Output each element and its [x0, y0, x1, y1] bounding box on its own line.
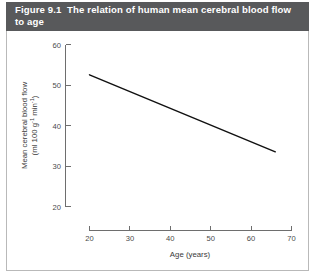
x-tick-label-60: 60 — [247, 234, 255, 243]
x-tick-label-50: 50 — [206, 234, 214, 243]
y-axis-ticks — [66, 45, 71, 207]
y-axis-title-mid: min — [30, 103, 39, 118]
figure-title-bar: Figure 9.1 The relation of human mean ce… — [6, 2, 309, 31]
y-tick-label-30: 30 — [53, 162, 61, 171]
figure-title: Figure 9.1 The relation of human mean ce… — [15, 4, 301, 29]
y-tick-label-20: 20 — [53, 203, 61, 212]
x-axis-title: Age (years) — [170, 250, 211, 259]
x-tick-label-40: 40 — [166, 234, 174, 243]
y-axis-tick-labels: 60 50 40 30 20 — [53, 41, 61, 212]
y-tick-label-40: 40 — [53, 122, 61, 131]
y-axis-title-prefix: (ml 100 g — [30, 123, 39, 156]
x-tick-label-20: 20 — [85, 234, 93, 243]
figure-container: Figure 9.1 The relation of human mean ce… — [0, 0, 313, 277]
x-axis-ticks — [90, 226, 292, 231]
y-axis-title-line1: Mean cerebral blood flow — [20, 82, 29, 169]
line-chart: 60 50 40 30 20 20 30 40 50 60 — [7, 31, 308, 269]
y-axis-title-suffix: ) — [30, 95, 39, 98]
chart-panel: 60 50 40 30 20 20 30 40 50 60 — [6, 31, 309, 271]
x-tick-label-30: 30 — [126, 234, 134, 243]
y-axis-title-line2: (ml 100 g-1 min-1) — [29, 95, 39, 155]
y-tick-label-50: 50 — [53, 81, 61, 90]
x-axis-tick-labels: 20 30 40 50 60 70 — [85, 234, 295, 243]
data-series-line — [90, 75, 276, 152]
y-tick-label-60: 60 — [53, 41, 61, 50]
x-tick-label-70: 70 — [287, 234, 295, 243]
